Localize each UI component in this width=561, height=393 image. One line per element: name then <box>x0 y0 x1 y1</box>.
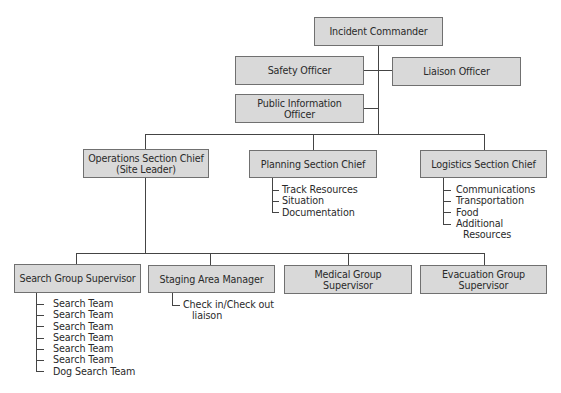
connector-planning <box>313 134 314 150</box>
node-label: (Site Leader) <box>116 164 176 175</box>
tree-tick <box>443 224 451 225</box>
list-item: Food <box>456 207 535 218</box>
planning-items: Track Resources Situation Documentation <box>282 184 358 218</box>
node-label: Incident Commander <box>329 26 427 37</box>
connector-groups-bar <box>76 253 485 254</box>
list-item: Search Team <box>53 332 135 343</box>
tree-tick <box>272 201 279 202</box>
list-item: Transportation <box>456 195 535 206</box>
list-item: Dog Search Team <box>53 366 135 377</box>
list-item: Search Team <box>53 354 135 365</box>
tree-tick <box>36 304 44 305</box>
list-item: Check in/Check out <box>183 299 274 310</box>
tree-tick <box>272 190 279 191</box>
connector-safety-liaison <box>364 70 392 71</box>
tree-tick <box>36 371 44 372</box>
node-medical-group-supervisor: Medical Group Supervisor <box>284 265 412 294</box>
connector-pio <box>364 108 378 109</box>
node-liaison-officer: Liaison Officer <box>392 57 521 86</box>
node-label: Public Information <box>257 98 341 109</box>
tree-tick <box>36 349 44 350</box>
node-incident-commander: Incident Commander <box>314 17 443 46</box>
tree-tick <box>443 212 451 213</box>
tree-tick <box>443 201 451 202</box>
list-item: Additional <box>456 218 535 229</box>
node-label: Evacuation Group <box>442 269 525 280</box>
node-public-information-officer: Public Information Officer <box>235 94 364 123</box>
node-label: Supervisor <box>323 280 373 291</box>
list-item: Communications <box>456 184 535 195</box>
tree-tick <box>272 212 279 213</box>
node-label: Planning Section Chief <box>261 159 366 170</box>
connector-operations <box>145 134 146 149</box>
list-item: liaison <box>183 310 274 321</box>
list-item: Situation <box>282 195 358 206</box>
node-label: Medical Group <box>314 269 381 280</box>
node-label: Search Group Supervisor <box>19 273 135 284</box>
node-label: Logistics Section Chief <box>431 159 536 170</box>
list-item: Search Team <box>53 309 135 320</box>
tree-tick <box>172 305 180 306</box>
planning-tree-line <box>272 178 273 213</box>
node-label: Staging Area Manager <box>160 274 264 285</box>
node-evacuation-group-supervisor: Evacuation Group Supervisor <box>420 265 547 294</box>
node-search-group-supervisor: Search Group Supervisor <box>14 264 141 293</box>
list-item: Resources <box>456 229 535 240</box>
list-item: Track Resources <box>282 184 358 195</box>
list-item: Documentation <box>282 207 358 218</box>
node-planning-section-chief: Planning Section Chief <box>249 150 377 178</box>
connector-medical <box>348 253 349 265</box>
tree-tick <box>36 338 44 339</box>
connector-evacuation <box>484 253 485 265</box>
node-logistics-section-chief: Logistics Section Chief <box>420 150 547 178</box>
connector-commander-trunk <box>378 46 379 134</box>
node-label: Operations Section Chief <box>88 153 204 164</box>
node-label: Safety Officer <box>268 65 332 76</box>
tree-tick <box>36 315 44 316</box>
connector-sections-bar <box>145 134 485 135</box>
staging-tree-line <box>172 293 173 305</box>
tree-tick <box>443 190 451 191</box>
node-operations-section-chief: Operations Section Chief (Site Leader) <box>83 149 209 178</box>
tree-tick <box>36 326 44 327</box>
search-items: Search Team Search Team Search Team Sear… <box>53 298 135 377</box>
connector-operations-down <box>145 178 146 253</box>
node-label: Supervisor <box>459 280 509 291</box>
list-item: Search Team <box>53 298 135 309</box>
node-label: Officer <box>284 109 315 120</box>
list-item: Search Team <box>53 343 135 354</box>
tree-tick <box>36 360 44 361</box>
connector-logistics <box>484 134 485 150</box>
list-item: Search Team <box>53 321 135 332</box>
node-label: Liaison Officer <box>423 66 489 77</box>
node-staging-area-manager: Staging Area Manager <box>148 265 275 293</box>
staging-items: Check in/Check out liaison <box>183 299 274 322</box>
connector-staging <box>210 253 211 265</box>
connector-search <box>76 253 77 264</box>
logistics-items: Communications Transportation Food Addit… <box>456 184 535 240</box>
node-safety-officer: Safety Officer <box>235 56 364 85</box>
